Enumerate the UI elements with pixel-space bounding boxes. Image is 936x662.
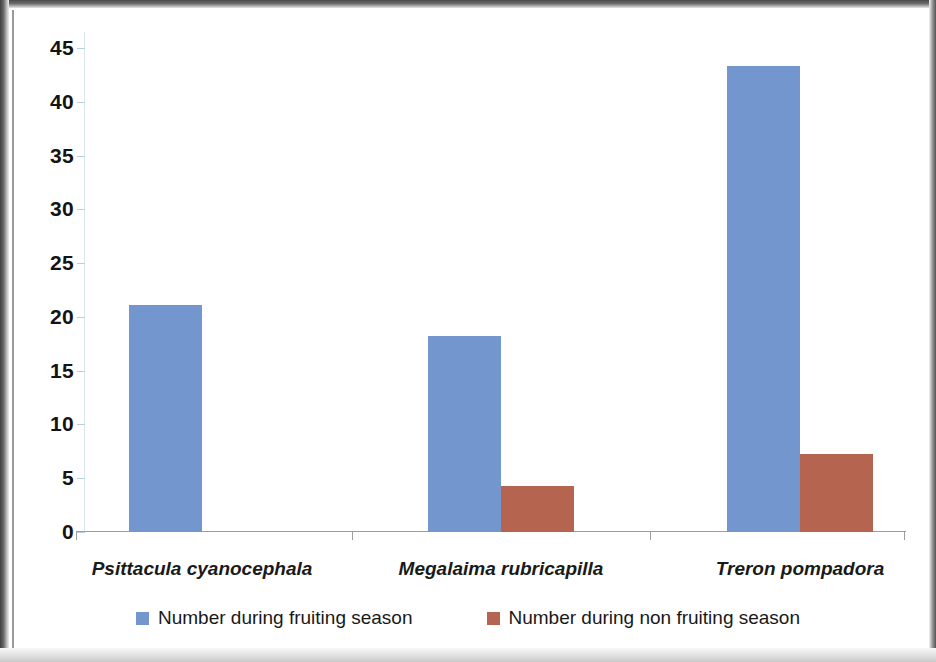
x-axis-category-label: Megalaima rubricapilla (399, 558, 604, 580)
x-axis-category-label: Treron pompadora (716, 558, 885, 580)
y-axis-tick-mark (77, 478, 85, 479)
bar-non-fruiting (800, 454, 873, 533)
legend-swatch-fruiting-icon (136, 612, 149, 625)
bar-chart: 051015202530354045 Psittacula cyanocepha… (16, 12, 920, 646)
bar-non-fruiting (501, 486, 574, 532)
scan-edge-top (0, 0, 936, 8)
x-axis-tick-mark (352, 531, 353, 540)
legend-swatch-non-fruiting-icon (487, 612, 500, 625)
y-axis-tick-mark (77, 48, 85, 49)
legend-label: Number during fruiting season (158, 607, 413, 629)
y-axis-tick-mark (77, 102, 85, 103)
scan-edge-left (0, 0, 9, 662)
legend-item: Number during fruiting season (136, 607, 413, 629)
y-axis-tick-mark (77, 424, 85, 425)
x-axis-category-label: Psittacula cyanocephala (92, 558, 313, 580)
bar-fruiting (428, 336, 501, 532)
y-axis-tick-mark (77, 371, 85, 372)
y-axis-tick-mark (77, 317, 85, 318)
bars-layer (16, 12, 920, 546)
y-axis-tick-mark (77, 532, 85, 533)
y-axis-tick-mark (77, 156, 85, 157)
y-axis-tick-mark (77, 263, 85, 264)
x-axis-category-labels: Psittacula cyanocephalaMegalaima rubrica… (16, 546, 920, 592)
plot-area: 051015202530354045 (16, 12, 920, 546)
x-axis-tick-mark (76, 531, 77, 540)
scan-edge-left-inner (12, 10, 14, 650)
bar-fruiting (129, 305, 202, 532)
scan-edge-right (929, 0, 936, 662)
scan-edge-bottom (0, 648, 936, 662)
x-axis-tick-mark (904, 531, 905, 540)
legend-label: Number during non fruiting season (509, 607, 801, 629)
y-axis-tick-mark (77, 209, 85, 210)
legend-item: Number during non fruiting season (487, 607, 801, 629)
chart-legend: Number during fruiting season Number dur… (16, 598, 920, 638)
scanned-chart-page: 051015202530354045 Psittacula cyanocepha… (0, 0, 936, 662)
x-axis-tick-mark (650, 531, 651, 540)
bar-fruiting (727, 66, 800, 532)
